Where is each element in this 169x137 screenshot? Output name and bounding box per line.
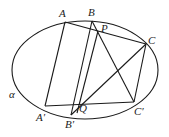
label-b: B <box>88 6 95 18</box>
label-p: P <box>100 22 108 34</box>
label-c-prime: C′ <box>134 105 144 117</box>
diagram-canvas: A B P C A′ B′ Q C′ α <box>0 0 169 137</box>
label-a-prime: A′ <box>35 111 46 123</box>
segment-a-a-prime <box>45 22 65 106</box>
label-q: Q <box>79 102 87 114</box>
label-a: A <box>58 7 66 19</box>
label-b-prime: B′ <box>65 118 75 130</box>
label-alpha: α <box>9 88 15 100</box>
segment-a-prime-c-prime <box>45 102 134 106</box>
segment-c-c-prime <box>134 44 146 102</box>
label-c: C <box>148 34 156 46</box>
